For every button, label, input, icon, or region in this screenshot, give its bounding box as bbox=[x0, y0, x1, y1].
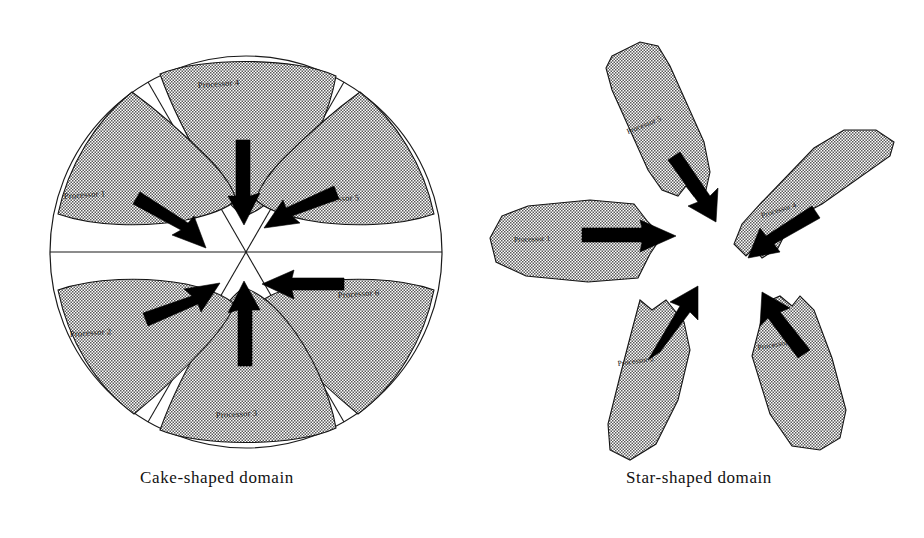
cake-shaped-domain-diagram: Processor 4 Processor 5 Processor 6 Proc… bbox=[0, 0, 462, 470]
star-label-processor-1: Processor 1 bbox=[514, 234, 551, 244]
panel-star-shaped-domain: Processor 5 Processor 4 Processor 3 Proc… bbox=[462, 0, 924, 538]
panel-cake-shaped-domain: Processor 4 Processor 5 Processor 6 Proc… bbox=[0, 0, 462, 538]
figure-root: Processor 4 Processor 5 Processor 6 Proc… bbox=[0, 0, 924, 538]
star-shaped-domain-diagram: Processor 5 Processor 4 Processor 3 Proc… bbox=[462, 0, 924, 470]
caption-cake-shaped-domain: Cake-shaped domain bbox=[0, 468, 448, 488]
caption-star-shaped-domain: Star-shaped domain bbox=[468, 468, 924, 488]
